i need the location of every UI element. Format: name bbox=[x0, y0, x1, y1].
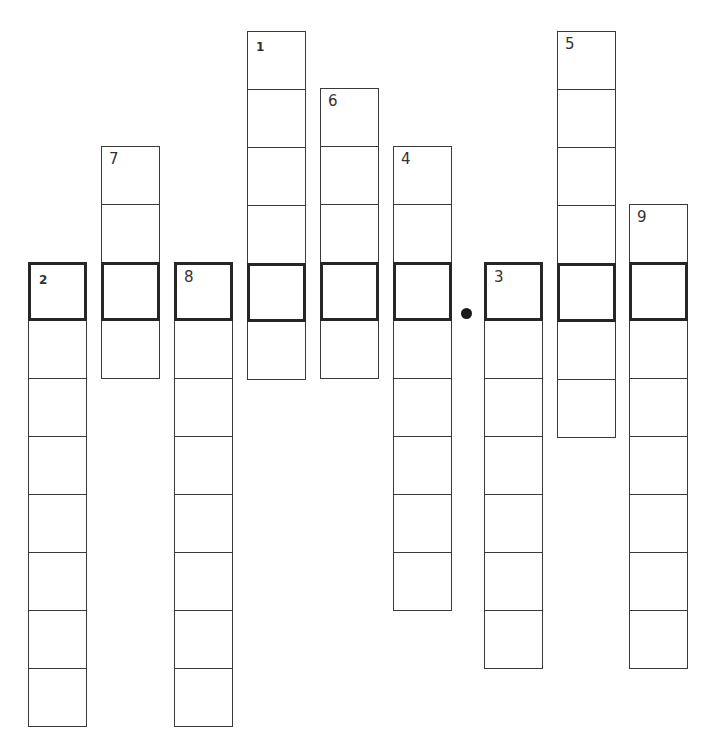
letter-input[interactable] bbox=[175, 321, 232, 378]
letter-cell[interactable] bbox=[629, 610, 688, 669]
letter-input[interactable] bbox=[394, 147, 451, 204]
letter-input[interactable] bbox=[558, 90, 615, 147]
letter-input[interactable] bbox=[630, 553, 687, 610]
letter-input[interactable] bbox=[630, 205, 687, 262]
letter-input[interactable] bbox=[558, 380, 615, 437]
letter-cell[interactable] bbox=[101, 204, 160, 263]
letter-cell[interactable] bbox=[28, 320, 87, 379]
letter-cell[interactable] bbox=[629, 320, 688, 379]
letter-input[interactable] bbox=[29, 669, 86, 726]
letter-cell[interactable] bbox=[629, 552, 688, 611]
letter-cell[interactable] bbox=[393, 552, 452, 611]
letter-input[interactable] bbox=[248, 32, 305, 89]
letter-cell[interactable] bbox=[557, 205, 616, 264]
letter-input[interactable] bbox=[175, 437, 232, 494]
key-row-cell[interactable] bbox=[247, 263, 306, 322]
letter-cell[interactable] bbox=[320, 146, 379, 205]
letter-cell[interactable] bbox=[174, 436, 233, 495]
letter-input[interactable] bbox=[29, 437, 86, 494]
letter-cell[interactable] bbox=[28, 552, 87, 611]
letter-input[interactable] bbox=[394, 437, 451, 494]
letter-input[interactable] bbox=[485, 553, 542, 610]
letter-cell[interactable] bbox=[174, 668, 233, 727]
letter-cell[interactable] bbox=[174, 378, 233, 437]
letter-input[interactable] bbox=[175, 379, 232, 436]
letter-input[interactable] bbox=[394, 379, 451, 436]
key-row-cell[interactable] bbox=[629, 262, 688, 321]
letter-input[interactable] bbox=[248, 148, 305, 205]
letter-cell[interactable] bbox=[629, 436, 688, 495]
key-row-cell[interactable]: 8 bbox=[174, 262, 233, 321]
letter-input[interactable] bbox=[248, 322, 305, 379]
letter-input[interactable] bbox=[394, 321, 451, 378]
letter-input[interactable] bbox=[394, 205, 451, 262]
letter-cell[interactable] bbox=[393, 494, 452, 553]
letter-input[interactable] bbox=[487, 265, 540, 318]
letter-input[interactable] bbox=[29, 553, 86, 610]
letter-cell[interactable] bbox=[484, 436, 543, 495]
letter-input[interactable] bbox=[558, 206, 615, 263]
letter-cell[interactable]: 7 bbox=[101, 146, 160, 205]
letter-input[interactable] bbox=[321, 205, 378, 262]
letter-input[interactable] bbox=[102, 147, 159, 204]
letter-cell[interactable] bbox=[629, 494, 688, 553]
key-row-cell[interactable]: 2 bbox=[28, 262, 87, 321]
letter-input[interactable] bbox=[321, 147, 378, 204]
letter-input[interactable] bbox=[175, 669, 232, 726]
letter-cell[interactable]: 9 bbox=[629, 204, 688, 263]
letter-input[interactable] bbox=[321, 321, 378, 378]
letter-input[interactable] bbox=[630, 321, 687, 378]
letter-cell[interactable] bbox=[557, 321, 616, 380]
letter-input[interactable] bbox=[248, 90, 305, 147]
letter-input[interactable] bbox=[177, 265, 230, 318]
letter-cell[interactable] bbox=[174, 494, 233, 553]
letter-cell[interactable] bbox=[28, 494, 87, 553]
letter-cell[interactable] bbox=[28, 378, 87, 437]
letter-input[interactable] bbox=[394, 553, 451, 610]
letter-input[interactable] bbox=[558, 148, 615, 205]
letter-cell[interactable] bbox=[557, 147, 616, 206]
letter-input[interactable] bbox=[394, 495, 451, 552]
letter-input[interactable] bbox=[485, 321, 542, 378]
letter-cell[interactable] bbox=[320, 204, 379, 263]
letter-cell[interactable] bbox=[28, 436, 87, 495]
letter-cell[interactable] bbox=[484, 610, 543, 669]
letter-input[interactable] bbox=[29, 379, 86, 436]
key-row-cell[interactable] bbox=[101, 262, 160, 321]
letter-input[interactable] bbox=[632, 265, 685, 318]
letter-cell[interactable] bbox=[247, 147, 306, 206]
letter-cell[interactable] bbox=[247, 205, 306, 264]
letter-input[interactable] bbox=[630, 611, 687, 668]
letter-input[interactable] bbox=[323, 265, 376, 318]
letter-cell[interactable] bbox=[484, 320, 543, 379]
letter-cell[interactable] bbox=[101, 320, 160, 379]
key-row-cell[interactable] bbox=[557, 263, 616, 322]
letter-input[interactable] bbox=[29, 321, 86, 378]
letter-input[interactable] bbox=[248, 206, 305, 263]
key-row-cell[interactable] bbox=[320, 262, 379, 321]
letter-cell[interactable] bbox=[557, 379, 616, 438]
letter-input[interactable] bbox=[558, 322, 615, 379]
letter-input[interactable] bbox=[485, 611, 542, 668]
letter-cell[interactable] bbox=[320, 320, 379, 379]
letter-cell[interactable] bbox=[393, 320, 452, 379]
letter-cell[interactable] bbox=[629, 378, 688, 437]
letter-cell[interactable] bbox=[484, 552, 543, 611]
letter-cell[interactable]: 6 bbox=[320, 88, 379, 147]
letter-cell[interactable]: 1 bbox=[247, 31, 306, 90]
letter-input[interactable] bbox=[250, 266, 303, 319]
key-row-cell[interactable] bbox=[393, 262, 452, 321]
letter-input[interactable] bbox=[630, 379, 687, 436]
letter-cell[interactable] bbox=[393, 378, 452, 437]
letter-cell[interactable] bbox=[174, 552, 233, 611]
letter-cell[interactable] bbox=[247, 321, 306, 380]
letter-input[interactable] bbox=[102, 205, 159, 262]
letter-input[interactable] bbox=[175, 553, 232, 610]
letter-input[interactable] bbox=[175, 611, 232, 668]
letter-input[interactable] bbox=[558, 32, 615, 89]
letter-cell[interactable] bbox=[174, 320, 233, 379]
letter-input[interactable] bbox=[104, 265, 157, 318]
letter-input[interactable] bbox=[175, 495, 232, 552]
letter-cell[interactable] bbox=[484, 378, 543, 437]
letter-input[interactable] bbox=[485, 379, 542, 436]
